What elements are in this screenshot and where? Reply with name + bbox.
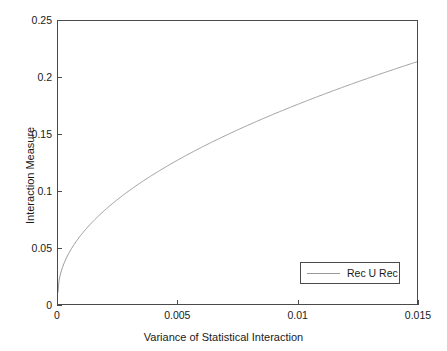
y-tick-label: 0.05 [0,243,52,254]
legend-label-rec-u-rec: Rec U Rec [347,267,398,279]
legend-line-sample [307,273,340,274]
x-tick-label: 0.005 [164,310,190,321]
y-tick-mark [57,248,62,249]
x-tick-label: 0.015 [405,310,431,321]
y-tick-label: 0 [0,300,52,311]
y-tick-mark [57,134,62,135]
y-axis-title: Interaction Measure [24,127,36,224]
x-tick-label: 0 [54,310,60,321]
legend-box: Rec U Rec [300,262,400,284]
y-tick-label: 0.25 [0,15,52,26]
y-tick-mark [57,20,62,21]
x-tick-mark [418,300,419,305]
x-tick-mark [298,300,299,305]
x-tick-mark [177,300,178,305]
y-tick-mark [57,77,62,78]
x-tick-mark [57,300,58,305]
y-tick-mark [57,305,62,306]
chart-figure: 00.050.10.150.20.25 00.0050.010.015 Vari… [0,0,447,351]
y-tick-label: 0.2 [0,72,52,83]
series-line-rec-u-rec [58,62,417,293]
y-tick-mark [57,191,62,192]
x-tick-label: 0.01 [287,310,307,321]
x-axis-title: Variance of Statistical Interaction [0,331,447,343]
